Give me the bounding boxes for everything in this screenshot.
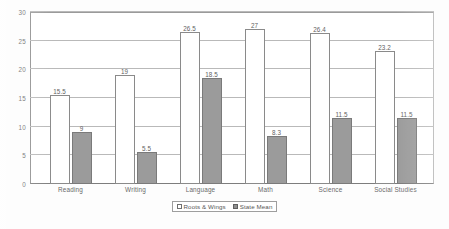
bar: 15.5 [50,95,70,184]
legend-swatch-icon [233,204,238,209]
legend-label: State Mean [240,203,273,210]
bar: 26.4 [310,33,330,184]
bars-layer: 15.59195.526.518.5278.326.411.523.211.5 [30,12,434,184]
bar-group: 26.411.5 [298,12,363,184]
y-axis-tick-label: 30 [19,9,26,16]
bar: 18.5 [202,78,222,184]
bar-group: 15.59 [38,12,103,184]
y-axis-tick-label: 0 [22,181,26,188]
y-axis-tick-label: 25 [19,37,26,44]
bar-value-label: 9 [80,125,84,132]
bar-value-label: 26.5 [183,25,196,32]
bar: 8.3 [267,136,287,184]
bar-value-label: 11.5 [335,111,347,118]
bar-value-label: 8.3 [272,129,281,136]
x-axis-category-label: Science [298,186,363,193]
bar-group: 278.3 [233,12,298,184]
bar-value-label: 23.2 [378,44,391,51]
bar-value-label: 27 [251,22,258,29]
legend-entry: State Mean [233,203,273,210]
x-axis-category-label: Social Studies [363,186,428,193]
plot-area: 051015202530 15.59195.526.518.5278.326.4… [30,12,434,184]
legend-swatch-icon [177,204,182,209]
x-axis-category-label: Reading [38,186,103,193]
legend-entry: Roots & Wings [177,203,226,210]
legend-label: Roots & Wings [184,203,226,210]
bar-chart: 051015202530 15.59195.526.518.5278.326.4… [0,0,449,229]
y-axis-tick-label: 15 [19,95,26,102]
y-axis-tick-label: 20 [19,66,26,73]
bar: 26.5 [180,32,200,184]
bar-group: 23.211.5 [363,12,428,184]
bar-value-label: 11.5 [400,111,412,118]
y-axis-tick-label: 10 [19,123,26,130]
bar-value-label: 5.5 [142,145,151,152]
bar: 11.5 [397,118,417,184]
bar: 9 [72,132,92,184]
x-axis-category-labels: ReadingWritingLanguageMathScienceSocial … [30,186,434,193]
bar: 11.5 [332,118,352,184]
legend: Roots & WingsState Mean [0,201,449,212]
x-axis-category-label: Writing [103,186,168,193]
bar: 19 [115,75,135,184]
bar-group: 195.5 [103,12,168,184]
x-axis-category-label: Math [233,186,298,193]
x-axis-category-label: Language [168,186,233,193]
legend-box: Roots & WingsState Mean [172,201,278,212]
bar: 5.5 [137,152,157,184]
bar-value-label: 19 [121,68,128,75]
bar: 27 [245,29,265,184]
y-axis-tick-label: 5 [22,152,26,159]
bar-group: 26.518.5 [168,12,233,184]
bar-value-label: 18.5 [205,71,218,78]
bar-value-label: 26.4 [313,26,326,33]
bar: 23.2 [375,51,395,184]
bar-value-label: 15.5 [53,88,66,95]
